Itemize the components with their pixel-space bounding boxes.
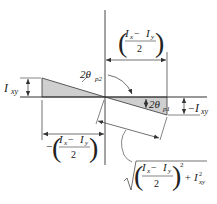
angle-p2-arc <box>108 75 132 94</box>
label-radius-sqrt: ( I x − I y 2 ) 2 + I 2 xy <box>124 160 207 191</box>
svg-text:xy: xy <box>200 107 209 116</box>
svg-text:2: 2 <box>154 178 159 189</box>
svg-text:I: I <box>194 101 200 115</box>
radius-ext-left <box>96 100 104 124</box>
mohr-diagram: I xy − I xy 2θ p2 2θ p1 ( I x − I y 2 ) … <box>0 0 217 204</box>
svg-text:I: I <box>3 81 9 95</box>
svg-text:+: + <box>185 172 191 183</box>
svg-text:2: 2 <box>71 149 76 160</box>
svg-text:−: − <box>188 102 194 114</box>
svg-text:−: − <box>151 162 157 173</box>
radius-leader <box>121 130 132 162</box>
label-top-fraction: ( I x − I y 2 ) <box>118 27 164 58</box>
svg-text:2: 2 <box>199 171 202 177</box>
label-bottom-fraction: − ( I x − I y 2 ) <box>46 132 98 163</box>
svg-text:p2: p2 <box>94 75 103 83</box>
svg-text:): ) <box>155 27 164 58</box>
radius-arrow <box>98 121 159 138</box>
svg-text:−: − <box>134 28 140 39</box>
radius-ext-right <box>160 117 167 140</box>
svg-text:): ) <box>89 132 98 163</box>
svg-text:2: 2 <box>180 161 184 169</box>
svg-text:xy: xy <box>10 87 19 96</box>
svg-text:p1: p1 <box>162 105 170 113</box>
svg-text:−: − <box>68 134 74 145</box>
svg-text:xy: xy <box>198 178 206 186</box>
svg-text:2θ: 2θ <box>80 68 92 80</box>
svg-text:2: 2 <box>137 43 142 54</box>
svg-text:2θ: 2θ <box>149 98 161 110</box>
label-neg-ixy: − I xy <box>188 101 209 116</box>
label-ixy: I xy <box>3 81 19 96</box>
